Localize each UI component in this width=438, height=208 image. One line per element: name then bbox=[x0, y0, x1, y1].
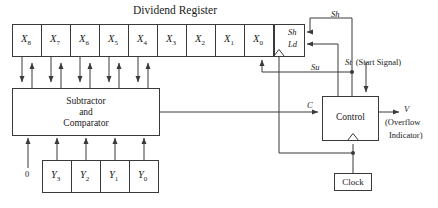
register-cell-x3: X3 bbox=[166, 34, 176, 47]
shift-control-label: Sh bbox=[288, 28, 297, 37]
overflow-note-line-2: Indicator) bbox=[389, 131, 423, 140]
register-cell-x7: X7 bbox=[50, 34, 60, 47]
cell-subscript: 3 bbox=[57, 175, 61, 183]
load-control-label: Ld bbox=[288, 40, 297, 49]
v-output-label: V bbox=[404, 105, 409, 114]
register-cell-y3: Y3 bbox=[51, 170, 60, 183]
register-cell-y2: Y2 bbox=[80, 170, 89, 183]
register-cell-x5: X5 bbox=[108, 34, 118, 47]
cell-subscript: 0 bbox=[144, 175, 148, 183]
cell-subscript: 5 bbox=[114, 39, 118, 47]
st-description: (Start Signal) bbox=[356, 57, 402, 67]
register-cell-y0: Y0 bbox=[138, 170, 147, 183]
register-cell-x6: X6 bbox=[79, 34, 89, 47]
cell-subscript: 1 bbox=[230, 39, 234, 47]
constant-zero-label: 0 bbox=[25, 170, 29, 179]
control-block-label: Control bbox=[322, 112, 379, 123]
register-cell-x4: X4 bbox=[137, 34, 147, 47]
c-signal-label: C bbox=[307, 101, 313, 110]
clock-block-label: Clock bbox=[334, 177, 372, 188]
start-signal-label: St (Start Signal) bbox=[345, 52, 401, 68]
subtractor-line-1: Subtractor bbox=[12, 96, 160, 107]
subtractor-block-label: Subtractor and Comparator bbox=[12, 96, 160, 129]
sh-signal-label: Sh bbox=[331, 10, 340, 19]
cell-subscript: 0 bbox=[259, 39, 263, 47]
cell-subscript: 1 bbox=[115, 175, 119, 183]
cell-subscript: 2 bbox=[201, 39, 205, 47]
page-title: Dividend Register bbox=[133, 5, 217, 17]
su-signal-label: Su bbox=[311, 63, 320, 72]
register-cell-x0: X0 bbox=[253, 34, 263, 47]
subtractor-line-3: Comparator bbox=[12, 118, 160, 129]
cell-subscript: 3 bbox=[172, 39, 176, 47]
register-cell-x2: X2 bbox=[195, 34, 205, 47]
cell-subscript: 6 bbox=[85, 39, 89, 47]
cell-subscript: 8 bbox=[27, 39, 31, 47]
register-cell-y1: Y1 bbox=[109, 170, 118, 183]
cell-subscript: 2 bbox=[86, 175, 90, 183]
divider-block-diagram: Dividend Register X8 X7 X6 X5 X4 X3 X2 X… bbox=[0, 0, 438, 208]
cell-subscript: 4 bbox=[143, 39, 147, 47]
st-symbol: St bbox=[345, 57, 352, 67]
subtractor-line-2: and bbox=[12, 107, 160, 118]
register-cell-x8: X8 bbox=[21, 34, 31, 47]
overflow-note-line-1: (Overflow bbox=[385, 118, 420, 127]
cell-subscript: 7 bbox=[56, 39, 60, 47]
register-cell-x1: X1 bbox=[224, 34, 234, 47]
